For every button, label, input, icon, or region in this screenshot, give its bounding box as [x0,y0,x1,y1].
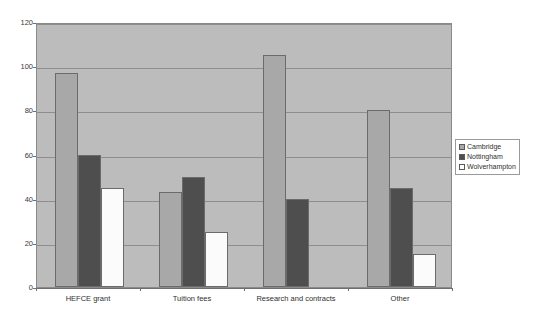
y-tick-label: 100 [3,63,33,71]
x-tick-label: Other [391,294,410,303]
y-axis-ticks: 020406080100120 [0,23,33,288]
bar [55,73,78,287]
legend-swatch-icon [459,164,465,170]
legend-item: Wolverhampton [459,162,516,171]
bar-chart-figure: 020406080100120 HEFCE grantTuition feesR… [0,0,538,314]
y-tick-label: 80 [3,107,33,115]
legend-label: Cambridge [467,142,501,151]
bar [78,155,101,288]
gridline [37,68,451,69]
x-tick-label: HEFCE grant [66,294,111,303]
x-tick-mark [36,288,37,291]
bar [263,55,286,287]
y-tick-label: 60 [3,152,33,160]
y-tick-label: 20 [3,240,33,248]
y-tick-label: 120 [3,19,33,27]
bar [159,192,182,287]
x-tick-label: Research and contracts [256,294,335,303]
x-tick-label: Tuition fees [173,294,212,303]
legend-label: Nottingham [467,152,503,161]
bar [182,177,205,287]
bar [101,188,124,287]
legend-swatch-icon [459,154,465,160]
legend-label: Wolverhampton [467,162,516,171]
bar [390,188,413,287]
bar [413,254,436,287]
legend-item: Nottingham [459,152,516,161]
x-tick-mark [140,288,141,291]
x-tick-mark [348,288,349,291]
bar [367,110,390,287]
legend-swatch-icon [459,144,465,150]
x-tick-mark [452,288,453,291]
y-tick-label: 40 [3,196,33,204]
legend-item: Cambridge [459,142,516,151]
bar [286,199,309,287]
bar [205,232,228,287]
y-tick-label: 0 [3,284,33,292]
chart-legend: CambridgeNottinghamWolverhampton [455,139,520,175]
x-tick-mark [244,288,245,291]
plot-area [36,23,452,288]
gridline [37,24,451,25]
